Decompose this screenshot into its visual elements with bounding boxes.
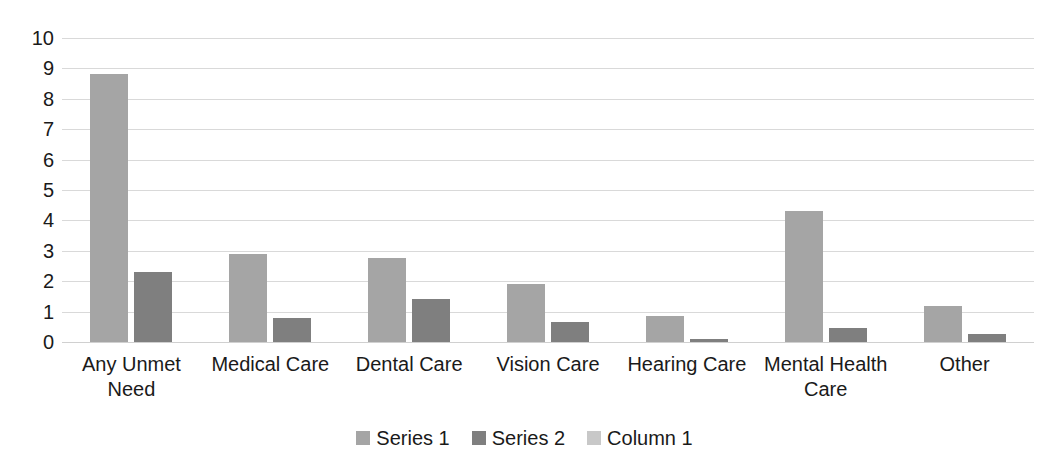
y-axis-tick-label: 5 — [0, 180, 54, 200]
bar[interactable] — [90, 74, 128, 342]
bar-group — [201, 38, 340, 342]
y-axis-tick-label: 2 — [0, 271, 54, 291]
legend-label: Column 1 — [607, 428, 693, 448]
bar[interactable] — [968, 334, 1006, 342]
legend-swatch-icon — [356, 431, 370, 445]
legend-swatch-icon — [587, 431, 601, 445]
y-axis-tick-label: 1 — [0, 302, 54, 322]
x-axis-category-label: Hearing Care — [617, 352, 756, 408]
bar-group — [479, 38, 618, 342]
gridline — [62, 342, 1034, 343]
bar-group — [756, 38, 895, 342]
bar-group — [62, 38, 201, 342]
bar-group-bars — [62, 38, 201, 342]
x-axis-category-label: Dental Care — [340, 352, 479, 408]
legend-swatch-icon — [472, 431, 486, 445]
bar[interactable] — [273, 318, 311, 342]
legend-item[interactable]: Series 1 — [356, 428, 449, 448]
bar[interactable] — [507, 284, 545, 342]
bar[interactable] — [368, 258, 406, 342]
chart-legend: Series 1Series 2Column 1 — [0, 428, 1049, 448]
x-axis-category-label: Other — [895, 352, 1034, 408]
bar-group-bars — [756, 38, 895, 342]
bar-group-bars — [895, 38, 1034, 342]
legend-label: Series 2 — [492, 428, 565, 448]
bar[interactable] — [412, 299, 450, 342]
bar[interactable] — [134, 272, 172, 342]
plot-area — [62, 38, 1034, 342]
y-axis-tick-label: 3 — [0, 241, 54, 261]
bar[interactable] — [785, 211, 823, 342]
bar-group-bars — [617, 38, 756, 342]
legend-label: Series 1 — [376, 428, 449, 448]
bar-group — [617, 38, 756, 342]
x-axis-category-label: Any Unmet Need — [62, 352, 201, 408]
bar-group — [340, 38, 479, 342]
bar[interactable] — [646, 316, 684, 342]
y-axis-tick-label: 9 — [0, 58, 54, 78]
bar-group-bars — [479, 38, 618, 342]
x-axis-category-label: Mental Health Care — [756, 352, 895, 408]
x-axis-category-label: Vision Care — [479, 352, 618, 408]
bar-group-bars — [340, 38, 479, 342]
y-axis-tick-label: 4 — [0, 210, 54, 230]
x-axis: Any Unmet NeedMedical CareDental CareVis… — [62, 352, 1034, 408]
y-axis-tick-label: 10 — [0, 28, 54, 48]
x-axis-category-label: Medical Care — [201, 352, 340, 408]
bar-group — [895, 38, 1034, 342]
legend-item[interactable]: Column 1 — [587, 428, 693, 448]
bar-chart: 109876543210 Any Unmet NeedMedical CareD… — [0, 0, 1049, 465]
y-axis-tick-label: 8 — [0, 89, 54, 109]
bar[interactable] — [690, 339, 728, 342]
bar[interactable] — [551, 322, 589, 342]
y-axis: 109876543210 — [0, 38, 54, 342]
y-axis-tick-label: 7 — [0, 119, 54, 139]
y-axis-tick-label: 6 — [0, 150, 54, 170]
legend-item[interactable]: Series 2 — [472, 428, 565, 448]
bar[interactable] — [229, 254, 267, 342]
bar[interactable] — [924, 306, 962, 342]
bar[interactable] — [829, 328, 867, 342]
bar-group-bars — [201, 38, 340, 342]
y-axis-tick-label: 0 — [0, 332, 54, 352]
bar-groups — [62, 38, 1034, 342]
